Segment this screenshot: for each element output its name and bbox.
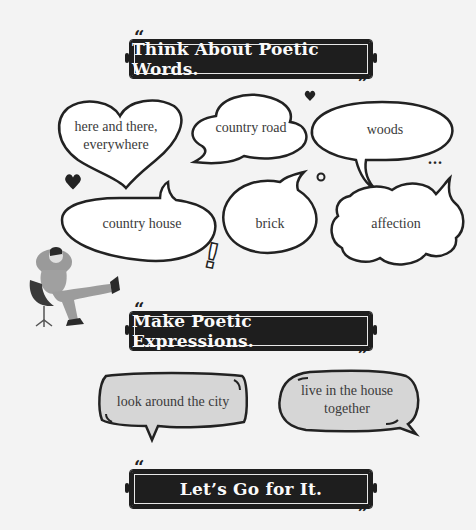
word-bubble-country-road: country road [196, 116, 306, 140]
banner-nub-left [125, 483, 129, 493]
open-quote-icon: “ [134, 301, 144, 319]
word-label: country house [103, 215, 182, 233]
word-label: brick [256, 215, 285, 233]
word-bubble-affection: affection [346, 212, 446, 236]
section-banner-words: “ Think About Poetic Words. ” [130, 40, 372, 78]
word-label: woods [367, 121, 404, 139]
banner-nub-right [373, 483, 377, 493]
word-line: everywhere [83, 136, 148, 154]
section-title: Make Poetic Expressions. [132, 311, 370, 351]
word-bubble-woods: woods [330, 118, 440, 142]
expression-line: together [324, 400, 370, 418]
word-bubble-here-and-there: here and there, everywhere [56, 114, 176, 158]
circle-icon [316, 172, 326, 182]
word-bubble-brick: brick [230, 212, 310, 236]
banner-nub-right [373, 53, 377, 63]
banner-nub-left [125, 325, 129, 335]
expression-bubble-look-around: look around the city [100, 390, 246, 414]
ellipsis-icon: ... [428, 150, 443, 168]
open-quote-icon: “ [134, 29, 144, 47]
banner-nub-right [373, 325, 377, 335]
word-label: affection [371, 215, 421, 233]
word-label: country road [215, 119, 286, 137]
banner-nub-left [125, 53, 129, 63]
section-banner-expressions: “ Make Poetic Expressions. ” [130, 312, 372, 350]
close-quote-icon: ” [358, 75, 368, 93]
open-quote-icon: “ [134, 459, 144, 477]
close-quote-icon: ” [358, 347, 368, 365]
expression-bubble-live-in-house: live in the house together [282, 380, 412, 420]
word-line: here and there, [75, 118, 158, 136]
section-banner-go: “ Let’s Go for It. ” [130, 470, 372, 508]
close-quote-icon: ” [358, 505, 368, 523]
expression-label: look around the city [117, 393, 229, 411]
woman-relaxing-illustration [14, 244, 124, 328]
word-bubble-country-house: country house [82, 212, 202, 236]
expression-line: live in the house [301, 382, 393, 400]
section-title: Think About Poetic Words. [132, 39, 370, 79]
section-title: Let’s Go for It. [180, 479, 322, 499]
